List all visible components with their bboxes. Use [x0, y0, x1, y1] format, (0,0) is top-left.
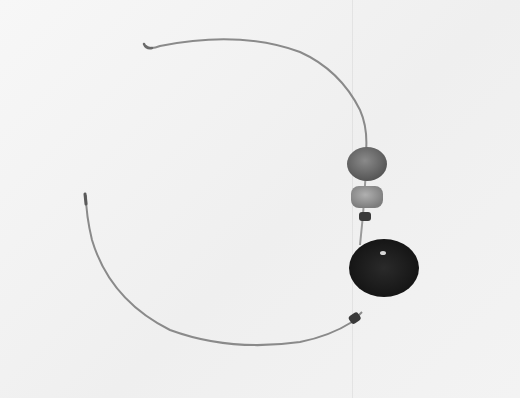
necklace-illustration — [0, 0, 520, 398]
spacer-bead-upper — [359, 212, 371, 221]
barrel-bead — [351, 186, 383, 208]
large-round-bead — [347, 147, 387, 181]
disc-bead-hole — [380, 251, 386, 255]
wire-hook-lower — [85, 194, 86, 204]
wire-hook-upper — [144, 44, 152, 48]
disc-bead — [349, 239, 419, 297]
wire-lower — [86, 196, 352, 345]
wire-upper — [146, 39, 366, 152]
necklace-photo — [0, 0, 520, 398]
